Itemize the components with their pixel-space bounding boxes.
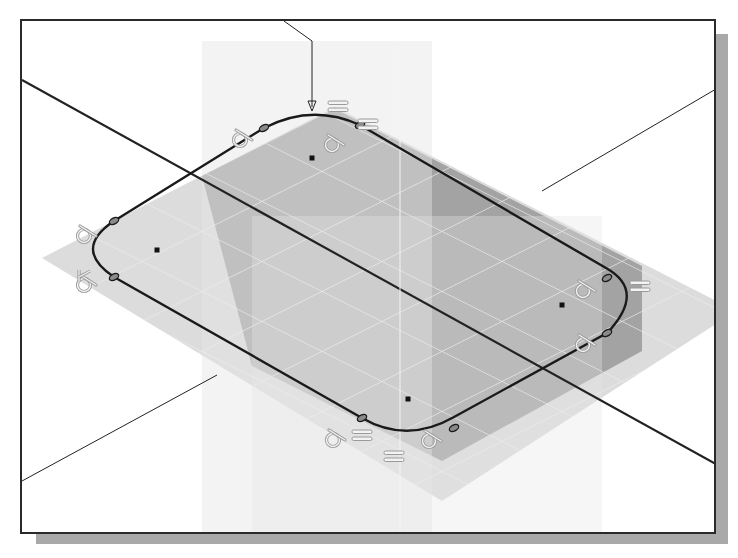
center-point bbox=[560, 303, 565, 308]
sketch-canvas[interactable] bbox=[22, 21, 714, 532]
center-point bbox=[310, 156, 315, 161]
axis-upper-right bbox=[542, 89, 714, 191]
cad-figure bbox=[0, 0, 738, 558]
center-point bbox=[155, 248, 160, 253]
center-point bbox=[406, 397, 411, 402]
frame-shadow-right bbox=[714, 34, 728, 544]
axis-lower-left bbox=[22, 375, 217, 481]
sketch-viewport[interactable] bbox=[20, 19, 716, 534]
